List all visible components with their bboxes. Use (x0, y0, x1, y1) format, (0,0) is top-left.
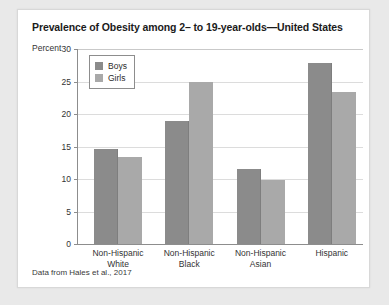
legend-swatch-girls (95, 74, 103, 82)
bar-boys (165, 121, 189, 244)
bar-group (308, 49, 356, 244)
y-tick-mark (74, 49, 78, 50)
figure-card: Prevalence of Obesity among 2– to 19-yea… (17, 9, 370, 288)
y-tick-label: 30 (62, 44, 71, 54)
legend-swatch-boys (95, 62, 103, 70)
x-axis-label: Hispanic (287, 248, 377, 259)
plot-area: 051015202530 Non-HispanicWhiteNon-Hispan… (78, 49, 363, 244)
x-axis-label-line: Hispanic (287, 248, 377, 259)
page-title: Prevalence of Obesity among 2– to 19-yea… (32, 21, 343, 33)
y-tick-mark (74, 212, 78, 213)
bar-boys (94, 149, 118, 244)
bar-girls (332, 92, 356, 244)
y-tick-mark (74, 114, 78, 115)
y-tick-mark (74, 244, 78, 245)
bar-boys (308, 63, 332, 244)
bar-girls (189, 82, 213, 245)
gridline-0 (78, 244, 363, 245)
legend-item: Boys (95, 60, 127, 72)
source-note: Data from Hales et al., 2017 (32, 268, 132, 277)
y-tick-label: 10 (62, 174, 71, 184)
legend-item: Girls (95, 72, 127, 84)
y-tick-label: 5 (66, 207, 71, 217)
x-axis-label-line: Asian (216, 259, 306, 270)
legend-label: Girls (108, 73, 125, 83)
bar-girls (261, 180, 285, 244)
chart-legend: BoysGirls (89, 55, 135, 89)
y-tick-mark (74, 82, 78, 83)
bar-girls (118, 157, 142, 244)
legend-label: Boys (108, 61, 127, 71)
bar-group (237, 49, 285, 244)
y-tick-label: 25 (62, 77, 71, 87)
bar-group (165, 49, 213, 244)
y-tick-label: 0 (66, 239, 71, 249)
y-tick-mark (74, 179, 78, 180)
y-tick-label: 15 (62, 142, 71, 152)
y-tick-mark (74, 147, 78, 148)
y-axis-title: Percent (32, 43, 61, 53)
bar-boys (237, 169, 261, 244)
y-tick-label: 20 (62, 109, 71, 119)
